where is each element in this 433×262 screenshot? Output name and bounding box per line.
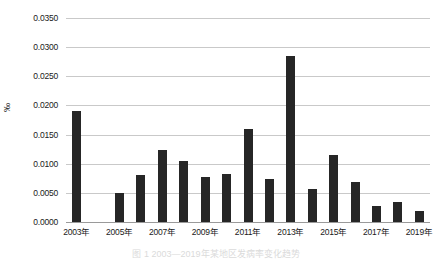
plot-area	[66, 18, 430, 222]
bar	[136, 175, 145, 222]
y-axis-tick-label: 0.0300	[33, 42, 58, 52]
bar	[372, 206, 381, 222]
bar	[72, 111, 81, 222]
bar	[351, 182, 360, 222]
y-axis-tick-label: 0.0100	[33, 159, 58, 169]
x-axis-tick-label: 2017年	[363, 225, 390, 237]
bar	[222, 174, 231, 222]
x-axis-tick-label: 2015年	[320, 225, 347, 237]
bar	[265, 179, 274, 222]
bar	[201, 177, 210, 222]
bar	[415, 211, 424, 222]
x-axis-tick-label: 2009年	[192, 225, 219, 237]
bars-layer	[66, 18, 430, 222]
bar	[286, 56, 295, 222]
x-axis-tick-label: 2007年	[149, 225, 176, 237]
y-axis-tick-labels: 0.00000.00500.01000.01500.02000.02500.03…	[0, 18, 62, 222]
y-axis-tick-label: 0.0050	[33, 188, 58, 198]
figure-caption: 图 1 2003—2019年某地区发病率变化趋势	[0, 247, 432, 262]
x-axis-tick-label: 2019年	[406, 225, 433, 237]
y-axis-tick-label: 0.0350	[33, 13, 58, 23]
x-axis-tick-label: 2013年	[277, 225, 304, 237]
bar	[329, 155, 338, 222]
x-axis-tick-label: 2003年	[63, 225, 90, 237]
bar	[158, 150, 167, 222]
x-axis-tick-labels: 2003年2005年2007年2009年2011年2013年2015年2017年…	[66, 225, 430, 239]
y-axis-tick-label: 0.0000	[33, 217, 58, 227]
x-axis-tick-label: 2011年	[235, 225, 261, 237]
y-axis-tick-label: 0.0250	[33, 71, 58, 81]
gridline	[66, 222, 430, 223]
x-axis-tick-label: 2005年	[106, 225, 133, 237]
bar	[115, 193, 124, 222]
bar	[308, 189, 317, 222]
y-axis-tick-label: 0.0150	[33, 130, 58, 140]
y-axis-tick-label: 0.0200	[33, 100, 58, 110]
bar	[179, 161, 188, 222]
bar	[244, 129, 253, 222]
bar	[393, 202, 402, 222]
